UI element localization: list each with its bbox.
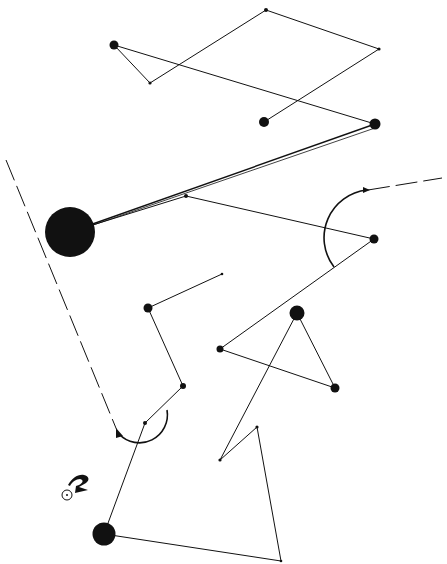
node-I	[370, 235, 379, 244]
node-N	[290, 306, 305, 321]
node-M	[143, 421, 147, 425]
node-Q	[218, 458, 221, 461]
arrowhead-icon	[363, 187, 370, 193]
node-A	[110, 41, 119, 50]
right-dashed-trajectory	[368, 178, 442, 190]
node-C	[264, 8, 268, 12]
node-S	[93, 523, 116, 546]
edge-J-K	[148, 274, 222, 308]
arcs-group	[116, 187, 370, 443]
node-B	[148, 81, 151, 84]
node-P	[331, 384, 340, 393]
edge-H-I	[186, 196, 374, 239]
node-D	[377, 47, 380, 50]
edge-B-C	[150, 10, 266, 83]
origin-dot-icon	[66, 494, 68, 496]
node-H	[184, 194, 188, 198]
dashed-trajectories-group	[6, 160, 442, 433]
edge-S-M	[104, 423, 145, 534]
node-link-diagram	[0, 0, 447, 564]
drawing-canvas	[0, 0, 447, 564]
node-L	[180, 383, 186, 389]
node-T	[280, 560, 283, 563]
arc-around-I	[324, 190, 367, 267]
edge-I-O	[220, 239, 374, 349]
edge-D-E	[264, 49, 379, 122]
edge-R-T	[257, 427, 281, 561]
edge-M-L	[145, 386, 183, 423]
curved-arrow-icon	[68, 475, 88, 493]
edge-C-D	[266, 10, 379, 49]
origin-symbol-group	[62, 475, 88, 500]
edges-group	[70, 10, 379, 561]
node-G	[45, 207, 95, 257]
node-O	[217, 346, 224, 353]
edge-L-J	[148, 308, 183, 386]
node-F	[370, 119, 381, 130]
node-R	[255, 425, 258, 428]
edge-Q-R	[220, 427, 257, 460]
node-K	[221, 273, 224, 276]
edge-T-S	[104, 534, 281, 561]
left-dashed-trajectory	[6, 160, 118, 433]
node-E	[259, 117, 269, 127]
node-J	[144, 304, 153, 313]
nodes-group	[45, 8, 381, 562]
edge-A-F	[114, 45, 375, 124]
